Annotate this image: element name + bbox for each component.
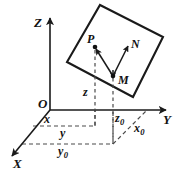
inclined-plane <box>67 5 163 97</box>
coord-y0-subscript: 0 <box>64 150 68 160</box>
z-axis-label: Z <box>34 16 42 29</box>
vector-m-to-n <box>113 46 128 76</box>
point-m-dot <box>111 74 116 79</box>
coord-z0-base: z <box>115 111 120 125</box>
coord-x0-label: x0 <box>134 122 145 137</box>
point-m-label: M <box>118 74 129 86</box>
vector-m-to-p <box>96 49 113 76</box>
coord-x-label: x <box>44 113 50 125</box>
coord-z0-label: z0 <box>115 112 124 127</box>
figure-canvas <box>0 0 178 181</box>
figure-3d-coordinate-plane: Z Y X O P M N z x y z0 x0 y0 <box>0 0 178 181</box>
coord-y-label: y <box>60 127 65 139</box>
coord-y0-label: y0 <box>58 145 68 160</box>
y-axis-label: Y <box>163 113 171 126</box>
coord-z0-subscript: 0 <box>120 117 124 127</box>
point-n-label: N <box>131 38 140 50</box>
coord-x0-subscript: 0 <box>140 127 144 137</box>
ground-dashed-construction <box>22 110 147 144</box>
coord-z-label: z <box>83 86 88 98</box>
origin-label: O <box>38 97 47 110</box>
coord-y0-base: y <box>58 144 63 158</box>
point-p-label: P <box>87 33 94 45</box>
x-axis-label: X <box>13 157 22 170</box>
